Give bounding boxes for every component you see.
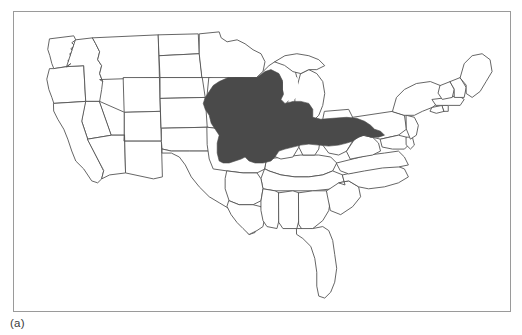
lake-michigan-notch: [283, 74, 299, 102]
state-oregon: [47, 66, 86, 104]
state-kansas: [160, 97, 207, 128]
us-map: [14, 12, 510, 311]
state-montana: [93, 35, 160, 82]
panel-caption: (a): [10, 316, 25, 330]
state-minnesota: [199, 32, 265, 80]
figure-panel: (a): [0, 0, 522, 335]
state-north-dakota: [158, 34, 199, 56]
state-arkansas: [225, 171, 263, 205]
state-nebraska: [160, 78, 205, 99]
state-new-jersey: [406, 115, 418, 139]
state-louisiana: [227, 201, 265, 235]
state-alabama: [279, 191, 299, 229]
map-frame: [13, 11, 511, 312]
state-wyoming: [124, 78, 161, 113]
state-south-dakota: [159, 54, 202, 78]
state-colorado: [125, 111, 162, 141]
state-georgia: [299, 191, 331, 231]
state-florida: [297, 227, 337, 299]
state-new-mexico: [125, 135, 163, 179]
